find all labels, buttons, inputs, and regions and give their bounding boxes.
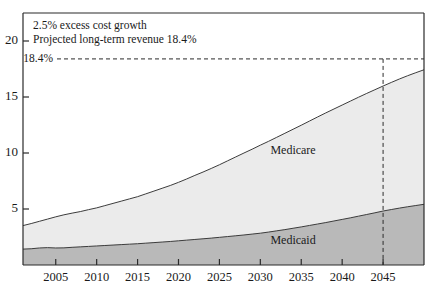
y-tick-label: 20: [5, 32, 18, 47]
x-tick-label: 2020: [166, 270, 191, 284]
y-tick-label: 15: [5, 88, 18, 103]
x-tick-label: 2010: [84, 270, 109, 284]
x-axis-tick-labels: 200520102015202020252030203520402045: [43, 270, 395, 284]
x-tick-label: 2025: [207, 270, 232, 284]
medicare-series-label: Medicare: [270, 143, 315, 157]
stacked-area-chart: 5101520 20052010201520202025203020352040…: [0, 0, 434, 289]
y-axis-tick-labels: 5101520: [5, 32, 18, 215]
x-tick-label: 2045: [371, 270, 396, 284]
assumption-note-line1: 2.5% excess cost growth: [33, 19, 147, 32]
y-tick-label: 10: [5, 144, 18, 159]
medicaid-series-label: Medicaid: [270, 233, 315, 247]
x-tick-label: 2015: [125, 270, 150, 284]
x-tick-label: 2035: [289, 270, 314, 284]
revenue-threshold-label: 18.4%: [23, 52, 53, 64]
x-tick-label: 2040: [330, 270, 355, 284]
assumption-note-line2: Projected long-term revenue 18.4%: [33, 33, 197, 46]
chart-container: 5101520 20052010201520202025203020352040…: [0, 0, 434, 289]
y-tick-label: 5: [12, 200, 19, 215]
x-tick-label: 2030: [248, 270, 273, 284]
x-tick-label: 2005: [43, 270, 68, 284]
